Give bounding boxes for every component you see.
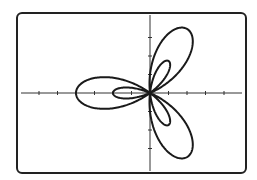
graph-screen bbox=[0, 0, 257, 180]
